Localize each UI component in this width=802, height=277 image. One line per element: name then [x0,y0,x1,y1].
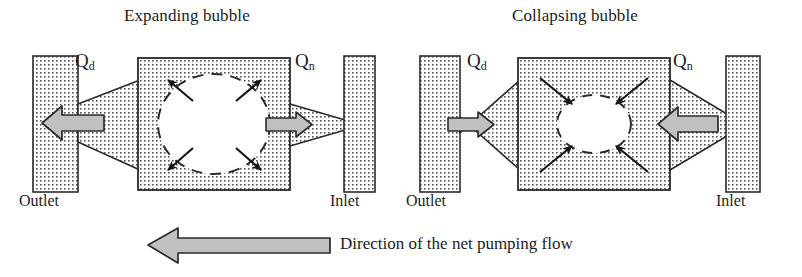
flow-label-qd-right-base: Q [467,50,481,71]
flow-label-qd-left-sub: d [89,59,95,73]
flow-label-qn-right-base: Q [673,50,687,71]
panel-collapsing [420,56,760,192]
flow-label-qd-right: Qd [467,50,487,72]
port-label-inlet-right: Inlet [716,192,745,210]
port-label-inlet-left: Inlet [330,192,359,210]
panel-expanding [33,56,375,192]
port-label-outlet-left: Outlet [19,192,59,210]
flow-label-qn-right-sub: n [687,59,693,73]
panel-title-expanding: Expanding bubble [124,6,250,26]
flow-label-qn-left-sub: n [309,59,315,73]
flow-label-qd-left: Qd [75,50,95,72]
flow-label-qn-right: Qn [673,50,693,72]
net-flow-arrow [148,228,330,263]
flow-label-qn-left: Qn [295,50,315,72]
flow-label-qn-left-base: Q [295,50,309,71]
inlet-block-left [344,56,375,192]
flow-label-qd-left-base: Q [75,50,89,71]
inlet-block-right [726,56,760,192]
bubble-collapsing [557,95,631,153]
net-flow-caption: Direction of the net pumping flow [340,234,573,254]
bubble-micropump-figure: Expanding bubble Collapsing bubble Qd Qn… [0,0,802,277]
flow-label-qd-right-sub: d [481,59,487,73]
port-label-outlet-right: Outlet [406,192,446,210]
bubble-expanding [158,74,270,174]
panel-title-collapsing: Collapsing bubble [512,6,638,26]
